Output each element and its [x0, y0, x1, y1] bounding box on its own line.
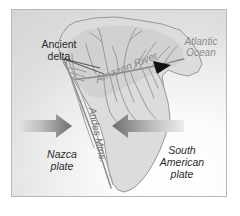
map-illustration	[12, 10, 226, 196]
amazon-basin-shading	[66, 26, 184, 98]
plate-tectonics-figure: Ancient delta Atlantic Ocean Amazon Rive…	[0, 0, 240, 216]
nazca-convergence-arrow-icon	[16, 114, 72, 138]
map-frame: Ancient delta Atlantic Ocean Amazon Rive…	[11, 9, 227, 197]
